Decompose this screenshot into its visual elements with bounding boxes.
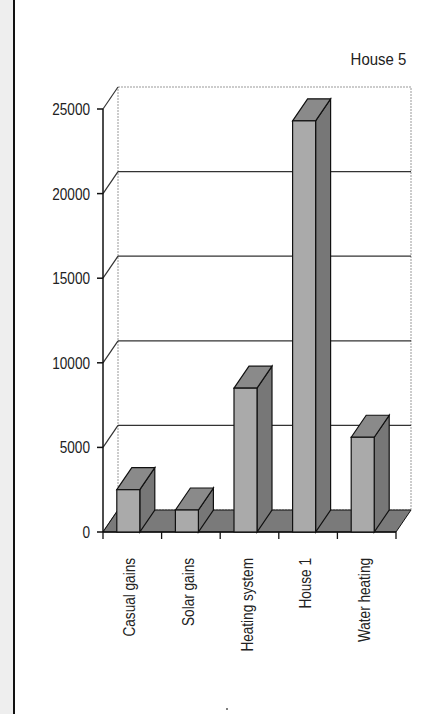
x-category-label: Heating system (238, 558, 255, 652)
side-gridline (103, 256, 118, 278)
x-category-label: Water heating (356, 558, 373, 642)
y-tick-label: 15000 (52, 270, 90, 287)
bar-solar-gains (175, 510, 198, 532)
side-gridline (103, 425, 118, 447)
y-tick-label: 20000 (52, 186, 90, 203)
bar-casual-gains (117, 490, 140, 532)
y-tick-label: 5000 (60, 439, 90, 456)
bar-house-1 (293, 121, 316, 532)
bar-side (257, 366, 272, 532)
bar-side (316, 99, 331, 532)
y-tick-label: 10000 (52, 355, 90, 372)
bar-chart: 0500010000150002000025000Casual gainsSol… (0, 0, 441, 714)
x-category-label: Solar gains (180, 558, 197, 626)
side-gridline (103, 341, 118, 363)
stray-dot (226, 708, 228, 710)
bar-heating-system (234, 388, 257, 532)
x-category-label: House 1 (297, 558, 314, 609)
bar-water-heating (351, 437, 374, 532)
y-tick-label: 0 (82, 524, 90, 541)
side-gridline (103, 87, 118, 109)
y-tick-label: 25000 (52, 101, 90, 118)
side-gridline (103, 172, 118, 194)
x-category-label: Casual gains (121, 558, 138, 637)
